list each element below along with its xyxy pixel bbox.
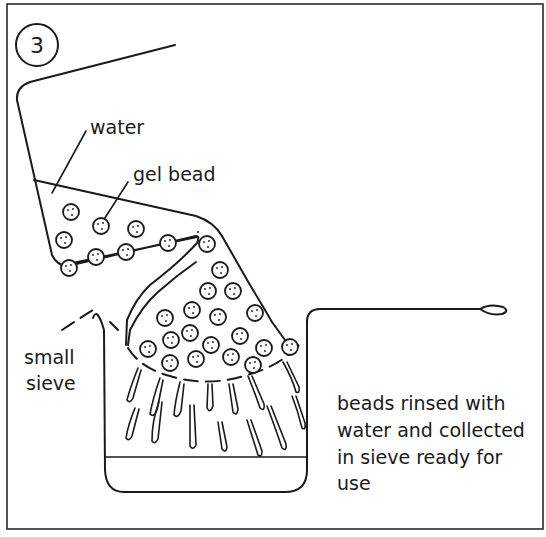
bead-dot (122, 249, 124, 251)
bead-dot (190, 335, 192, 337)
bead-dot (236, 333, 238, 335)
water-leader (52, 131, 86, 193)
bead-dot (260, 345, 262, 347)
step-number: 3 (30, 33, 44, 58)
bead-dot (132, 226, 134, 228)
caption-line-2: water and collected (337, 419, 525, 441)
bead-dot (96, 259, 98, 261)
bead-dot (214, 314, 216, 316)
bead-dot (69, 270, 71, 272)
bead-dot (149, 345, 151, 347)
caption-line-4: use (337, 472, 371, 494)
bead-dot (197, 355, 199, 357)
bead-dot (64, 242, 66, 244)
bead-dot (172, 336, 174, 338)
bead-dot (255, 315, 257, 317)
bead-dot (137, 225, 139, 227)
step-badge: 3 (16, 24, 58, 66)
bead-dot (192, 356, 194, 358)
caption: beads rinsed with water and collected in… (337, 392, 525, 494)
caption-line-3: in sieve ready for (337, 446, 503, 468)
bead-dot (229, 288, 231, 290)
label-water: water (90, 116, 144, 138)
bead-dot (164, 240, 166, 242)
bead-dot (102, 222, 104, 224)
bead-dot (188, 307, 190, 309)
water-jets (126, 362, 305, 456)
bead-dot (233, 293, 235, 295)
bead-dot (220, 272, 222, 274)
bead-dot (208, 240, 210, 242)
bead-dot (211, 347, 213, 349)
bead-dot (286, 344, 288, 346)
bead-dot (253, 367, 255, 369)
bead-dot (191, 329, 193, 331)
bead-dot (97, 223, 99, 225)
bead-dot (171, 342, 173, 344)
bead-dot (67, 209, 69, 211)
bead-dot (92, 254, 94, 256)
bead-dot (72, 208, 74, 210)
bead-dot (166, 314, 168, 316)
bead-dot (291, 343, 293, 345)
gel-beads (56, 204, 298, 373)
bead-dot (208, 293, 210, 295)
bead-dot (148, 351, 150, 353)
bead-dot (144, 346, 146, 348)
bead-dot (136, 231, 138, 233)
bead-dot (171, 359, 173, 361)
bead-dot (167, 337, 169, 339)
label-small-sieve-1: small (24, 346, 75, 368)
bead-dot (264, 350, 266, 352)
label-gel-bead: gel bead (133, 163, 216, 185)
bead-dot (234, 287, 236, 289)
bead-dot (219, 313, 221, 315)
bead-dot (207, 342, 209, 344)
bead-dot (212, 341, 214, 343)
bead-dot (161, 315, 163, 317)
bead-dot (71, 214, 73, 216)
bead-dot (221, 266, 223, 268)
bead-dot (240, 338, 242, 340)
label-small-sieve-2: sieve (26, 372, 76, 394)
bead-dot (196, 361, 198, 363)
bead-dot (265, 344, 267, 346)
bead-dot (193, 306, 195, 308)
bead-dot (65, 265, 67, 267)
bead-dot (209, 287, 211, 289)
bead-dot (65, 236, 67, 238)
beaker-spout (480, 305, 506, 314)
bead-dot (60, 237, 62, 239)
bead-dot (231, 359, 233, 361)
bead-dot (249, 362, 251, 364)
bead-dot (290, 349, 292, 351)
bead-dot (227, 354, 229, 356)
bead-dot (70, 264, 72, 266)
bead-dot (127, 248, 129, 250)
gel-bead-leader (101, 182, 128, 224)
bead-dot (207, 246, 209, 248)
bead-dot (251, 310, 253, 312)
bead-container (17, 45, 198, 345)
bead-dot (203, 241, 205, 243)
bead-dot (241, 332, 243, 334)
bead-dot (169, 239, 171, 241)
bead-dot (218, 319, 220, 321)
bead-dot (192, 312, 194, 314)
bead-dot (166, 360, 168, 362)
bead-dot (256, 309, 258, 311)
bead-dot (216, 267, 218, 269)
bead-dot (170, 365, 172, 367)
bead-dot (165, 320, 167, 322)
bead-dot (101, 228, 103, 230)
bead-dot (254, 361, 256, 363)
bead-dot (126, 254, 128, 256)
bead-dot (97, 253, 99, 255)
caption-line-1: beads rinsed with (337, 392, 506, 414)
bead-dot (204, 288, 206, 290)
gel-bead-rinsing-diagram: 3 water gel bead small sieve (0, 0, 546, 537)
bead-dot (186, 330, 188, 332)
bead-dot (232, 353, 234, 355)
bead-dot (168, 245, 170, 247)
